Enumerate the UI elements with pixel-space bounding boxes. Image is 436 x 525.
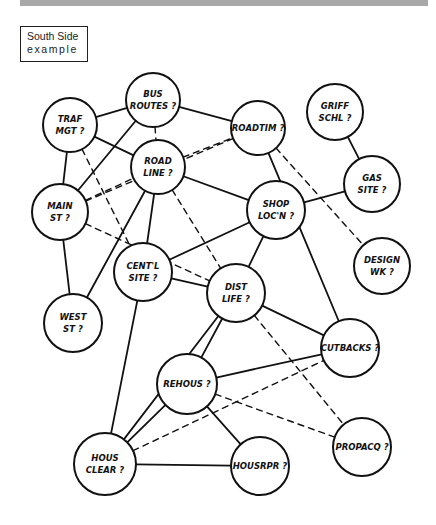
- node-label: SITE ?: [129, 273, 158, 283]
- dashed-link-roadline-dist: [172, 190, 221, 268]
- node-label: LIFE ?: [222, 294, 250, 304]
- node-design: DESIGNWK ?: [354, 238, 410, 294]
- node-label: HOUS: [91, 453, 118, 463]
- solid-link-roadline-centl: [147, 194, 154, 244]
- node-label: SHOP: [263, 199, 290, 209]
- dashed-link-roadline-roadtim: [183, 138, 233, 157]
- solid-link-shop-gas: [304, 191, 345, 202]
- node-rehous: REHOUS ?: [157, 354, 217, 414]
- node-label: CENT'L: [127, 261, 160, 271]
- node-label: PROPACQ ?: [335, 442, 388, 452]
- dashed-link-bus-roadline: [155, 127, 156, 140]
- node-traf: TRAFMGT ?: [43, 98, 97, 152]
- node-label: MGT ?: [56, 126, 85, 136]
- node-label: CLEAR ?: [86, 465, 125, 475]
- solid-link-traf-main: [63, 152, 67, 184]
- solid-link-bus-roadtim: [179, 107, 232, 121]
- solid-link-centl-dist: [171, 278, 207, 286]
- node-label: REHOUS ?: [163, 379, 211, 389]
- node-roadtim: ROADTIM ?: [231, 101, 285, 155]
- node-centl: CENT'LSITE ?: [114, 243, 172, 301]
- node-housrpr: HOUSRPR ?: [231, 437, 289, 495]
- solid-link-dist-cutbacks: [262, 306, 324, 336]
- solid-link-main-west: [63, 240, 69, 294]
- node-label: MAIN: [47, 201, 72, 211]
- node-label: SCHL ?: [319, 113, 352, 123]
- node-label: BUS: [143, 89, 163, 99]
- node-label: GRIFF: [321, 101, 349, 111]
- node-bus: BUSROUTES ?: [126, 73, 180, 127]
- node-circle: [74, 433, 136, 495]
- node-label: TRAF: [58, 114, 83, 124]
- solid-link-griff-gas: [348, 137, 359, 159]
- dashed-link-rehous-propacq: [215, 394, 334, 437]
- node-griff: GRIFFSCHL ?: [307, 84, 363, 140]
- node-dist: DISTLIFE ?: [207, 264, 265, 322]
- node-label: HOUSRPR ?: [233, 461, 288, 471]
- node-label: LINE ?: [143, 168, 172, 178]
- node-housclear: HOUSCLEAR ?: [74, 433, 136, 495]
- node-west: WESTST ?: [44, 294, 102, 352]
- node-label: ST ?: [50, 213, 70, 223]
- node-circle: [307, 84, 363, 140]
- solid-link-centl-housclear: [111, 300, 137, 433]
- solid-link-rehous-cutbacks: [216, 354, 321, 377]
- node-main: MAINST ?: [32, 184, 88, 240]
- node-circle: [126, 73, 180, 127]
- node-circle: [114, 243, 172, 301]
- node-circle: [354, 238, 410, 294]
- node-circle: [32, 184, 88, 240]
- node-circle: [43, 98, 97, 152]
- node-shop: SHOPLOC'N ?: [247, 181, 305, 239]
- node-gas: GASSITE ?: [344, 156, 400, 212]
- dashed-link-main-roadline: [85, 178, 133, 200]
- node-label: ROADTIM ?: [232, 123, 285, 133]
- node-propacq: PROPACQ ?: [333, 418, 391, 476]
- node-circle: [131, 140, 185, 194]
- node-label: GAS: [362, 173, 382, 183]
- node-label: ST ?: [63, 324, 83, 334]
- node-circle: [207, 264, 265, 322]
- solid-link-roadline-shop: [183, 176, 248, 200]
- node-label: CUTBACKS ?: [321, 343, 380, 353]
- node-label: ROAD: [144, 156, 171, 166]
- node-circle: [44, 294, 102, 352]
- solid-link-shop-dist: [249, 236, 264, 267]
- node-circle: [247, 181, 305, 239]
- solid-link-traf-bus: [96, 108, 127, 117]
- node-label: LOC'N ?: [258, 211, 294, 221]
- solid-link-housclear-housrpr: [136, 464, 231, 465]
- dashed-link-traf-centl: [82, 149, 130, 246]
- node-circle: [344, 156, 400, 212]
- solid-link-rehous-housrpr: [207, 406, 241, 444]
- cognitive-map-diagram: BUSROUTES ?TRAFMGT ?ROADTIM ?GRIFFSCHL ?…: [0, 0, 436, 525]
- node-label: ROUTES ?: [130, 101, 176, 111]
- solid-link-shop-centl: [169, 222, 249, 259]
- node-roadline: ROADLINE ?: [131, 140, 185, 194]
- node-label: DIST: [225, 282, 248, 292]
- node-cutbacks: CUTBACKS ?: [321, 319, 380, 377]
- node-label: DESIGN: [364, 255, 400, 265]
- node-label: SITE ?: [358, 185, 387, 195]
- node-label: WK ?: [370, 267, 394, 277]
- node-label: WEST: [59, 312, 87, 322]
